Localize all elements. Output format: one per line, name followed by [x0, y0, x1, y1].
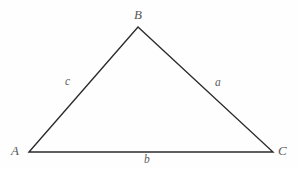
vertex-label-a: A: [11, 144, 19, 157]
figure-background: [0, 0, 297, 169]
side-label-c: c: [65, 76, 70, 88]
figure-canvas: A B C c a b: [0, 0, 297, 169]
triangle-diagram: [0, 0, 297, 169]
vertex-label-b: B: [134, 8, 142, 21]
vertex-label-c: C: [278, 144, 287, 157]
side-label-a: a: [215, 77, 221, 89]
side-label-b: b: [144, 154, 150, 166]
